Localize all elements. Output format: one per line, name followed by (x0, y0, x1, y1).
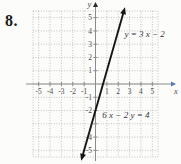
y-tick-label: -1 (86, 93, 92, 102)
x-tick-label: -2 (70, 87, 76, 96)
x-tick-label: 5 (150, 87, 154, 96)
y-axis-label: y (87, 0, 92, 9)
x-tick-label: -5 (36, 87, 42, 96)
y-tick-label: 5 (88, 13, 92, 22)
x-tick-label: -4 (47, 87, 53, 96)
x-tick-label: 4 (139, 87, 143, 96)
x-tick-label: 1 (105, 87, 109, 96)
equation-label: 6 x − 2 y = 4 (102, 110, 150, 120)
y-tick-label: 4 (88, 27, 92, 36)
x-tick-label: 2 (116, 87, 120, 96)
line-arrowhead-top (120, 7, 126, 15)
y-tick-label: -2 (86, 106, 92, 115)
x-tick-label: -3 (58, 87, 64, 96)
y-tick-label: 3 (88, 40, 92, 49)
equation-label: y = 3 x − 2 (123, 29, 165, 39)
coordinate-graph: -5-4-3-2-11234554321-1-2-4-5xyy = 3 x − … (0, 0, 181, 164)
y-axis-arrowhead (93, 2, 98, 7)
y-tick-label: -5 (86, 146, 92, 155)
y-tick-label: 2 (88, 53, 92, 62)
x-axis-label: x (173, 86, 178, 96)
worksheet-page: 8. -5-4-3-2-11234554321-1-2-4-5xyy = 3 x… (0, 0, 181, 164)
x-tick-label: 3 (128, 87, 132, 96)
y-tick-label: 1 (88, 66, 92, 75)
